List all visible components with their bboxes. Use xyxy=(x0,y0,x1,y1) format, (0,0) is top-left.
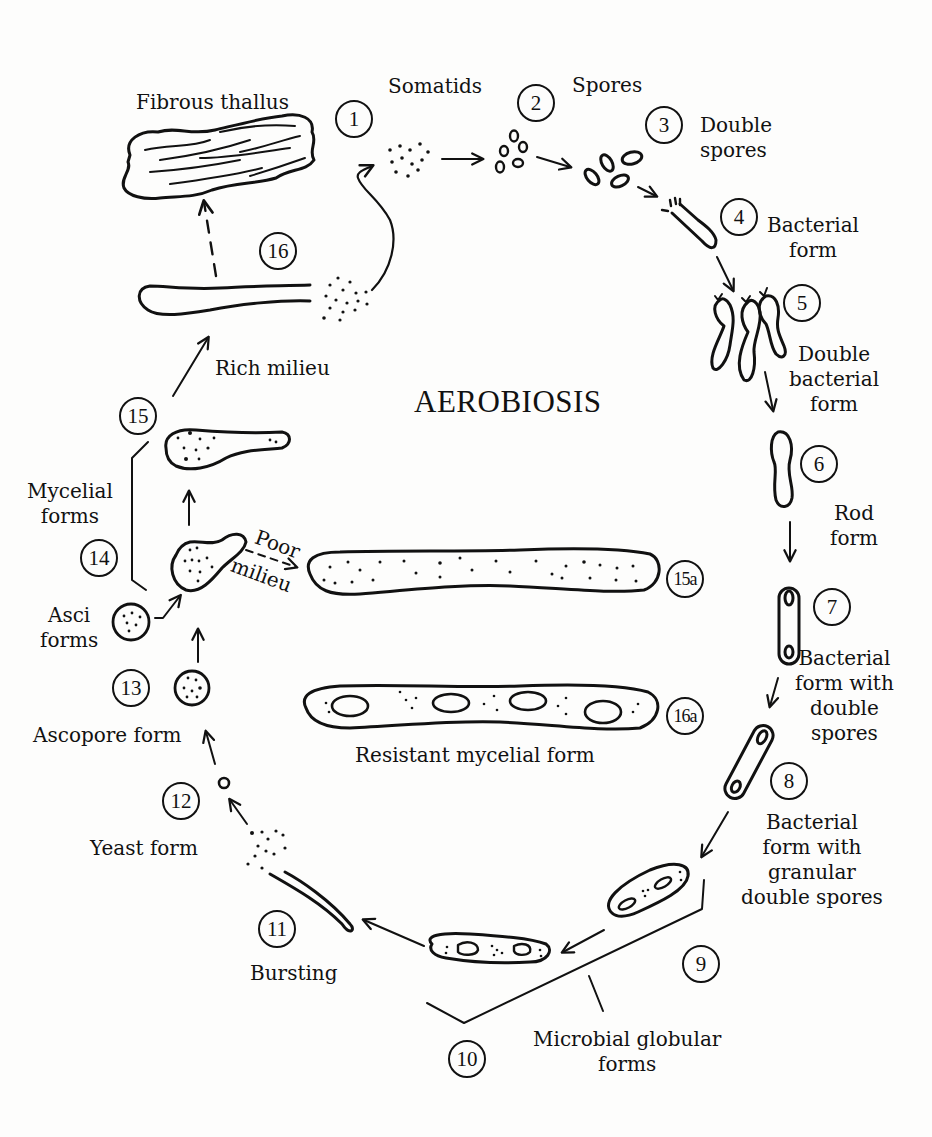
stage-number-16: 16 xyxy=(259,232,297,270)
bacterial-form-shape xyxy=(662,198,716,248)
stage-number-14: 14 xyxy=(80,539,118,577)
stage-number-6: 6 xyxy=(800,445,838,483)
double-bacterial-form-shape xyxy=(712,288,785,381)
stage-number-11: 11 xyxy=(258,910,296,948)
ascopore-shape xyxy=(175,671,209,705)
label-fibrous-thallus: Fibrous thallus xyxy=(136,90,289,115)
stage-number-5: 5 xyxy=(783,284,821,322)
rod-form-shape xyxy=(771,432,792,507)
label-bacterial-form: Bacterial form xyxy=(767,213,859,263)
somatids-dots xyxy=(388,142,430,178)
stage-number-4: 4 xyxy=(720,198,758,236)
resistant-16a-shape xyxy=(304,685,658,729)
label-yeast-form: Yeast form xyxy=(90,836,198,861)
label-resistant-mycelial-form: Resistant mycelial form xyxy=(355,743,595,768)
stage-number-3: 3 xyxy=(645,106,683,144)
stage-number-2: 2 xyxy=(517,84,555,122)
label-bursting: Bursting xyxy=(250,961,338,986)
fibrous-thallus-shape xyxy=(123,115,314,199)
label-asci-forms: Asci forms xyxy=(40,603,98,653)
globular-form-9-shape xyxy=(608,864,688,916)
label-bacterial-granular-spores: Bacterial form with granular double spor… xyxy=(741,810,883,910)
stage-number-10: 10 xyxy=(448,1040,486,1078)
mycelial-16-shape xyxy=(139,276,368,321)
yeast-shape xyxy=(219,778,229,788)
mycelial-bracket xyxy=(132,442,148,590)
label-ascopore-form: Ascopore form xyxy=(33,723,182,748)
globular-form-10-shape xyxy=(430,933,550,962)
asci-shape xyxy=(113,604,149,640)
label-spores: Spores xyxy=(572,73,642,98)
stage-number-7: 7 xyxy=(813,588,851,626)
mycelial-15-shape xyxy=(166,430,290,469)
stage-number-8: 8 xyxy=(770,762,808,800)
poor-milieu-15a-shape xyxy=(308,549,659,595)
label-rich-milieu: Rich milieu xyxy=(215,356,330,381)
label-double-bacterial-form: Double bacterial form xyxy=(789,342,879,417)
stage-number-12: 12 xyxy=(162,782,200,820)
label-double-spores: Double spores xyxy=(700,113,772,163)
stage-number-15: 15 xyxy=(119,397,157,435)
label-mycelial-forms: Mycelial forms xyxy=(27,479,113,529)
label-somatids: Somatids xyxy=(388,74,482,99)
diagram-drawing xyxy=(0,0,932,1137)
label-bacterial-double-spores: Bacterial form with double spores xyxy=(795,646,894,746)
stage-number-9: 9 xyxy=(682,945,720,983)
stage-number-13: 13 xyxy=(112,669,150,707)
stage-number-1: 1 xyxy=(335,100,373,138)
dashed-arrow-to-thallus xyxy=(204,202,216,276)
spores-shape xyxy=(496,131,527,173)
label-microbial-globular-forms: Microbial globular forms xyxy=(533,1027,721,1077)
bacterial-granular-spores-shape xyxy=(721,722,776,802)
stage-number-15a: 15a xyxy=(666,560,704,598)
aerobiosis-cycle-diagram: 1 2 3 4 5 6 7 8 9 10 11 12 13 14 15 16 1… xyxy=(0,0,932,1137)
stage-number-16a: 16a xyxy=(666,697,704,735)
double-spores-shape xyxy=(582,150,643,190)
diagram-title: AEROBIOSIS xyxy=(414,384,602,420)
label-rod-form: Rod form xyxy=(830,501,878,551)
